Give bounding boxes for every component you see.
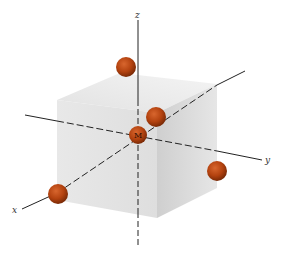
cube [57, 73, 217, 218]
y-axis-label: y [264, 155, 271, 165]
tetrahedral-cube-diagram: z y x M [0, 0, 287, 258]
ligand-sphere-x-end [48, 184, 68, 204]
x-axis-label: x [12, 205, 17, 215]
ligand-sphere-top [116, 57, 136, 77]
ligand-sphere-right [207, 161, 227, 181]
central-atom-label: M [134, 131, 142, 140]
central-atom: M [129, 126, 147, 144]
diagram-canvas: z y x M [0, 0, 287, 258]
ligand-sphere-front-top [146, 107, 166, 127]
z-axis-label: z [134, 10, 140, 20]
